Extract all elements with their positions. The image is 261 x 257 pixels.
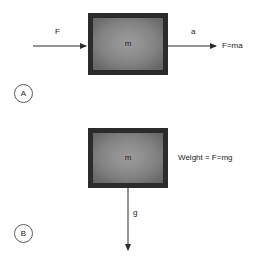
panel-marker-a: A [14, 84, 33, 103]
mass-block-a: m [88, 13, 168, 75]
mass-block-b: m [88, 128, 168, 188]
gravity-label-b: g [133, 209, 137, 217]
panel-marker-b: B [14, 224, 33, 243]
weight-equation-label-b: Weight = F=mg [178, 154, 233, 162]
acceleration-label-a: a [191, 28, 195, 36]
equation-label-a: F=ma [222, 42, 243, 50]
force-label-a: F [55, 28, 60, 36]
mass-block-b-label: m [125, 154, 132, 162]
mass-block-a-label: m [125, 40, 132, 48]
physics-diagram: m F a F=ma A m Weight = F=mg g B [0, 0, 261, 257]
